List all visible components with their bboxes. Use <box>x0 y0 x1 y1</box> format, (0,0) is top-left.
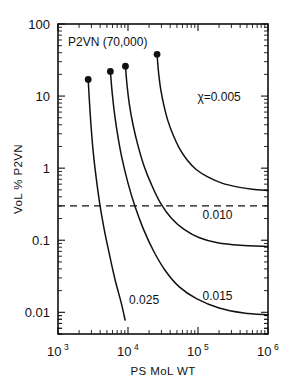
x-tick-label: 10 <box>47 344 61 359</box>
series-label-3: 0.025 <box>129 293 159 307</box>
curve-endpoint-markers <box>85 51 161 83</box>
endpoint-dot-0 <box>154 51 161 58</box>
y-tick-label: 1 <box>43 161 50 176</box>
chart-figure: 1031041051061001010.10.01PS MoL WTVoL % … <box>0 0 295 390</box>
x-tick-label: 10 <box>117 344 131 359</box>
curve-2 <box>110 71 268 315</box>
log-log-plot: 1031041051061001010.10.01PS MoL WTVoL % … <box>0 0 295 390</box>
endpoint-dot-1 <box>122 63 129 70</box>
x-axis-ticks <box>58 24 268 334</box>
y-tick-label: 10 <box>36 89 50 104</box>
endpoint-dot-3 <box>85 76 92 83</box>
endpoint-dot-2 <box>107 68 114 75</box>
x-tick-label-exponent: 3 <box>64 342 69 352</box>
y-tick-label: 0.01 <box>25 305 50 320</box>
x-tick-label: 10 <box>257 344 271 359</box>
curve-3 <box>88 79 125 320</box>
series-label-0: χ=0.005 <box>197 90 241 104</box>
y-tick-label: 0.1 <box>32 233 50 248</box>
plot-frame <box>58 24 268 334</box>
y-axis-ticks <box>58 24 268 334</box>
x-axis-label-full: PS MoL WT <box>130 365 195 377</box>
plot-border <box>58 24 268 334</box>
chart-text-labels: 1031041051061001010.10.01PS MoL WTVoL % … <box>12 17 279 377</box>
x-tick-label-exponent: 4 <box>134 342 139 352</box>
series-label-2: 0.015 <box>202 289 232 303</box>
y-axis-label: VoL % P2VN <box>12 144 24 214</box>
y-tick-label: 100 <box>28 17 50 32</box>
data-curves <box>88 54 268 320</box>
curve-0 <box>157 54 268 190</box>
sample-annotation: P2VN (70,000) <box>68 35 147 49</box>
x-tick-label: 10 <box>187 344 201 359</box>
x-tick-label-exponent: 5 <box>204 342 209 352</box>
series-label-1: 0.010 <box>202 208 232 222</box>
x-tick-label-exponent: 6 <box>274 342 279 352</box>
